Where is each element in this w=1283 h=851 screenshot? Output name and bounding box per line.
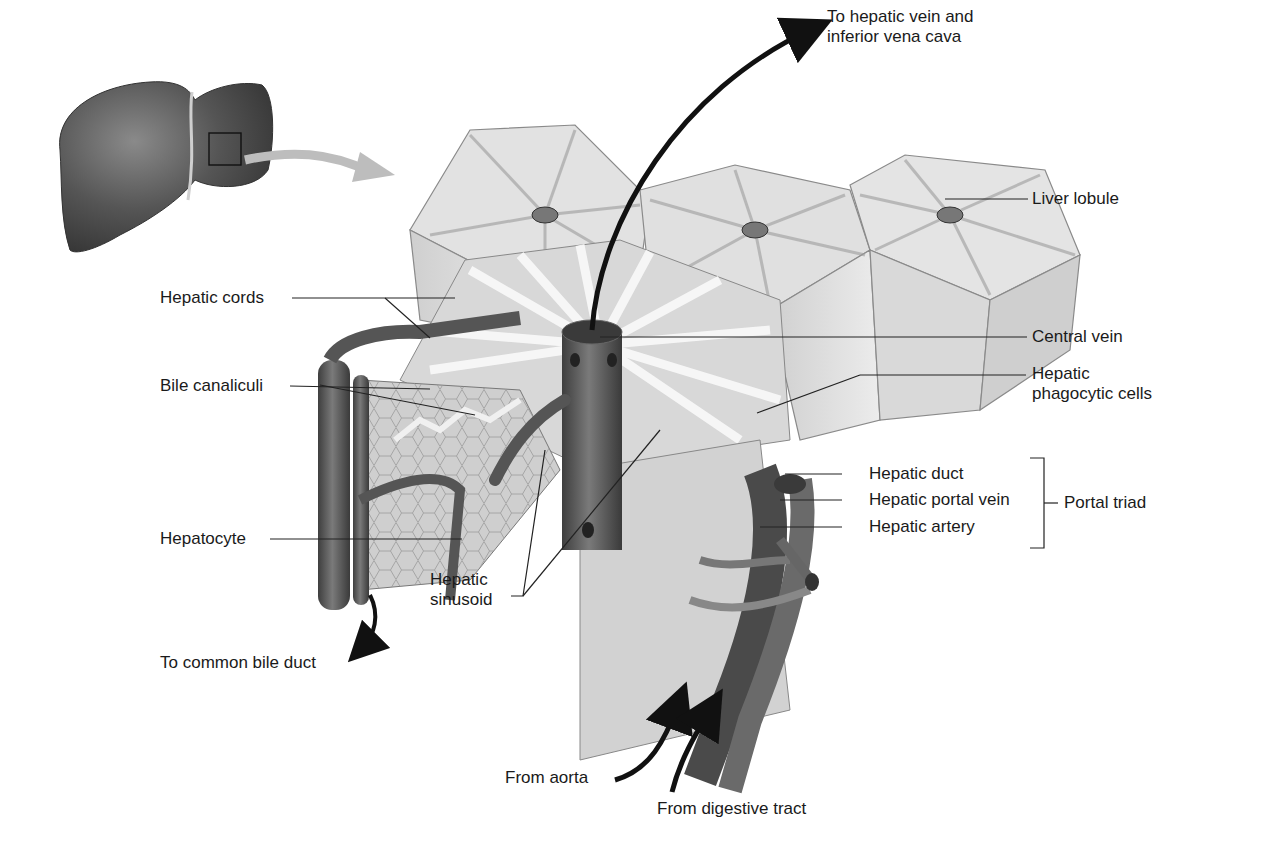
label-line: sinusoid bbox=[430, 590, 492, 610]
label-line: Hepatic bbox=[430, 570, 492, 590]
label-hepatic-portal-vein: Hepatic portal vein bbox=[869, 490, 1010, 510]
whole-liver-icon bbox=[60, 82, 273, 252]
label-from-digestive-tract: From digestive tract bbox=[657, 799, 806, 819]
label-hepatic-duct: Hepatic duct bbox=[869, 464, 964, 484]
label-line: To hepatic vein and bbox=[827, 7, 974, 27]
label-liver-lobule: Liver lobule bbox=[1032, 189, 1119, 209]
label-line: Hepatic bbox=[1032, 364, 1152, 384]
liver-lobule-illustration bbox=[0, 0, 1283, 851]
label-to-hepatic-vein: To hepatic vein and inferior vena cava bbox=[827, 7, 974, 47]
label-hepatic-cords: Hepatic cords bbox=[160, 288, 264, 308]
label-line: inferior vena cava bbox=[827, 27, 974, 47]
label-hepatocyte: Hepatocyte bbox=[160, 529, 246, 549]
label-from-aorta: From aorta bbox=[505, 768, 588, 788]
label-hepatic-artery: Hepatic artery bbox=[869, 517, 975, 537]
label-line: phagocytic cells bbox=[1032, 384, 1152, 404]
label-hepatic-phagocytic-cells: Hepatic phagocytic cells bbox=[1032, 364, 1152, 404]
label-bile-canaliculi: Bile canaliculi bbox=[160, 376, 263, 396]
label-to-common-bile-duct: To common bile duct bbox=[160, 653, 316, 673]
label-hepatic-sinusoid: Hepatic sinusoid bbox=[430, 570, 492, 610]
label-central-vein: Central vein bbox=[1032, 327, 1123, 347]
label-portal-triad: Portal triad bbox=[1064, 493, 1146, 513]
